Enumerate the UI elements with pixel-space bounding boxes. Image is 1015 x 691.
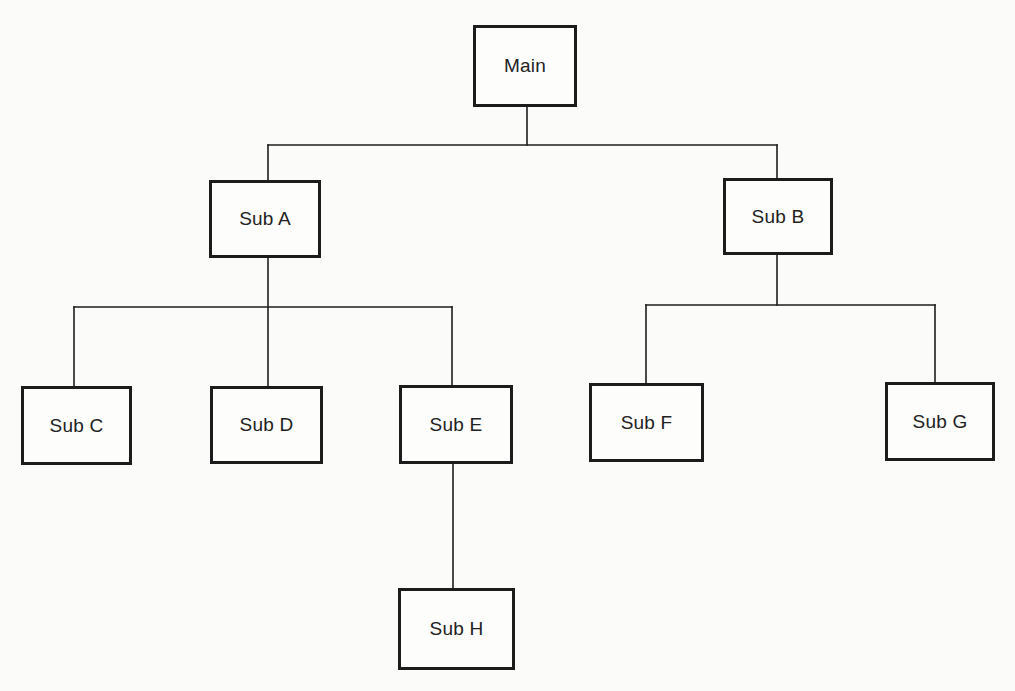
node-main: Main bbox=[473, 25, 577, 107]
node-label: Sub H bbox=[430, 618, 484, 640]
node-sub-d: Sub D bbox=[210, 386, 323, 464]
node-label: Sub G bbox=[913, 411, 968, 433]
node-label: Main bbox=[504, 55, 546, 77]
node-sub-f: Sub F bbox=[589, 383, 704, 462]
node-sub-c: Sub C bbox=[21, 386, 132, 465]
hierarchy-diagram: Main Sub A Sub B Sub C Sub D Sub E Sub F… bbox=[0, 0, 1015, 691]
node-label: Sub E bbox=[430, 414, 483, 436]
node-label: Sub D bbox=[240, 414, 294, 436]
node-label: Sub C bbox=[50, 415, 104, 437]
node-sub-h: Sub H bbox=[398, 588, 515, 670]
node-label: Sub A bbox=[239, 208, 291, 230]
node-sub-e: Sub E bbox=[399, 385, 513, 464]
node-sub-b: Sub B bbox=[723, 178, 833, 255]
node-sub-g: Sub G bbox=[885, 382, 995, 461]
node-sub-a: Sub A bbox=[209, 180, 321, 258]
node-label: Sub F bbox=[621, 412, 673, 434]
node-label: Sub B bbox=[752, 206, 805, 228]
